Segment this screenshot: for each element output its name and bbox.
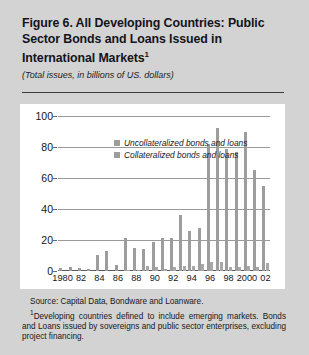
bar-2001-series-1 [253, 170, 256, 271]
y-axis-tick-60: 60 [41, 172, 53, 184]
bar-1982-series-1 [78, 268, 81, 271]
bar-1997-series-2 [220, 262, 223, 271]
bar-1981-series-1 [69, 267, 72, 271]
bar-1992-series-1 [170, 238, 173, 271]
bar-1992-series-2 [173, 267, 176, 271]
legend-label-uncollateralized: Uncollateralized bonds and loans [124, 138, 247, 148]
bar-1999-series-1 [235, 152, 238, 271]
figure-subtitle: (Total issues, in billions of US. dollar… [22, 70, 284, 81]
x-axis-tick-1992: 92 [168, 273, 178, 283]
legend-item-uncollateralized: Uncollateralized bonds and loans [114, 138, 247, 148]
chart-x-axis-labels: 1980828486889092949698200002 [58, 273, 270, 287]
x-axis-tick-1998: 98 [223, 273, 233, 283]
y-axis-tickmark-80 [53, 147, 57, 148]
bar-group-1983 [86, 116, 95, 271]
bar-2002-series-2 [266, 263, 269, 271]
bar-1993-series-1 [179, 215, 182, 271]
bar-group-1985 [104, 116, 113, 271]
x-axis-tick-2000: 2000 [237, 273, 257, 283]
bar-1984-series-1 [96, 255, 99, 271]
figure-title-line-2: Sector Bonds and Loans Issued in [22, 32, 222, 46]
y-axis-tick-40: 40 [41, 203, 53, 215]
page-title: Figure 6. All Developing Countries: Publ… [22, 16, 284, 67]
y-axis-tickmark-0 [53, 271, 57, 272]
figure-page: Figure 6. All Developing Countries: Publ… [0, 0, 309, 355]
x-axis-tick-1986: 86 [113, 273, 123, 283]
y-axis-tick-80: 80 [41, 141, 53, 153]
y-axis-tickmark-100 [53, 116, 57, 117]
legend-label-collateralized: Collateralized bonds and loans [124, 150, 239, 160]
y-axis-tick-100: 100 [35, 110, 53, 122]
figure-title-line-1: Figure 6. All Developing Countries: Publ… [22, 16, 265, 30]
y-axis-tickmark-60 [53, 178, 57, 179]
bar-1998-series-1 [225, 149, 228, 271]
bar-2001-series-2 [256, 267, 259, 271]
bar-1995-series-2 [201, 264, 204, 271]
x-axis-tick-1994: 94 [187, 273, 197, 283]
header-divider [22, 92, 284, 93]
bar-1993-series-2 [183, 266, 186, 271]
figure-footer: Source: Capital Data, Bondware and Loanw… [22, 297, 286, 343]
x-axis-tick-1980: 1980 [52, 273, 72, 283]
bar-group-1984 [95, 116, 104, 271]
bar-1994-series-2 [192, 266, 195, 271]
chart-plot-area: 020406080100 Uncollateralized bonds and … [58, 116, 270, 271]
y-axis-tickmark-40 [53, 209, 57, 210]
footnote-text: Developing countries defined to include … [22, 311, 286, 341]
x-axis-tick-1996: 96 [205, 273, 215, 283]
bar-group-1981 [67, 116, 76, 271]
x-axis-tick-2002: 02 [260, 273, 270, 283]
x-axis-tick-1990: 90 [150, 273, 160, 283]
legend-item-collateralized: Collateralized bonds and loans [114, 150, 247, 160]
legend-swatch-icon-uncollateralized [114, 140, 120, 146]
bar-group-2002 [261, 116, 270, 271]
bar-1980-series-1 [59, 268, 62, 271]
bar-1996-series-2 [210, 262, 213, 271]
bar-1996-series-1 [207, 144, 210, 271]
figure-title-line-3: International Markets [22, 51, 145, 65]
bar-1998-series-2 [229, 267, 232, 271]
bar-1988-series-1 [133, 248, 136, 271]
bar-group-1982 [76, 116, 85, 271]
bar-2002-series-1 [262, 186, 265, 271]
bar-1991-series-1 [161, 238, 164, 271]
x-axis-tick-1988: 88 [131, 273, 141, 283]
figure-footnote: 1Developing countries defined to include… [22, 308, 286, 344]
bar-2000-series-2 [247, 266, 250, 271]
bar-group-2001 [252, 116, 261, 271]
bar-group-1980 [58, 116, 67, 271]
bar-1987-series-2 [127, 270, 130, 271]
bar-1990-series-2 [155, 267, 158, 271]
bar-1987-series-1 [124, 238, 127, 271]
y-axis-tickmark-20 [53, 240, 57, 241]
figure-header: Figure 6. All Developing Countries: Publ… [22, 16, 284, 81]
source-note: Source: Capital Data, Bondware and Loanw… [30, 297, 286, 308]
x-axis-tick-1982: 82 [76, 273, 86, 283]
bar-1983-series-1 [87, 269, 90, 271]
x-axis-tick-1984: 84 [94, 273, 104, 283]
bar-1999-series-2 [238, 267, 241, 271]
chart-panel: 020406080100 Uncollateralized bonds and … [20, 104, 285, 289]
bar-1989-series-2 [146, 266, 149, 271]
legend-swatch-icon-collateralized [114, 152, 120, 158]
bar-1985-series-1 [105, 251, 108, 271]
chart-legend: Uncollateralized bonds and loans Collate… [114, 138, 247, 162]
bar-1991-series-2 [164, 269, 167, 271]
y-axis-tick-20: 20 [41, 234, 53, 246]
figure-title-footnote-marker: 1 [145, 50, 149, 59]
bar-1988-series-2 [137, 270, 140, 271]
bar-1986-series-1 [115, 265, 118, 271]
